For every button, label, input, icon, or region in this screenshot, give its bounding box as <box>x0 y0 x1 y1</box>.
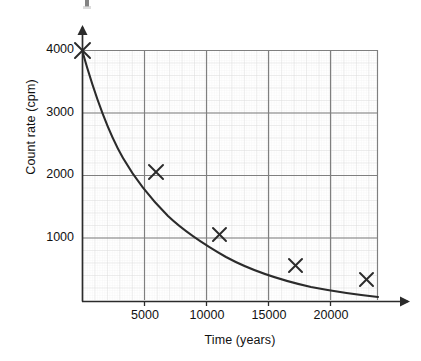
x-tick-label-5000: 5000 <box>110 308 180 322</box>
decay-curve-chart: 4000 3000 2000 1000 5000 10000 15000 200… <box>0 0 421 361</box>
x-axis-title: Time (years) <box>150 333 330 347</box>
x-tick-label-10000: 10000 <box>172 308 242 322</box>
x-tick-label-15000: 15000 <box>234 308 304 322</box>
x-tick-label-20000: 20000 <box>296 308 366 322</box>
y-tick-label-1000: 1000 <box>26 230 74 244</box>
y-axis-title: Count rate (cpm) <box>24 52 38 202</box>
